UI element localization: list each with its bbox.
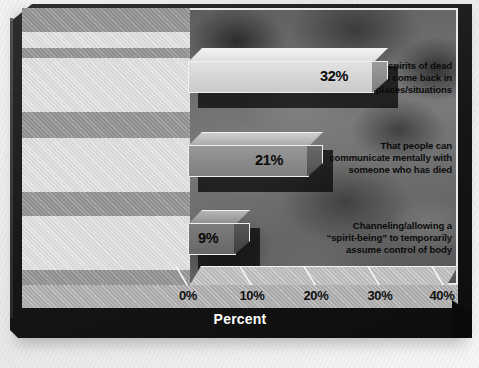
category-row-band <box>22 58 190 112</box>
chart-plot-body: Ghosts/that spirits of dead people can c… <box>22 8 458 308</box>
x-axis-title: Percent <box>22 311 458 327</box>
axis-tick-label-20: 20% <box>294 288 338 303</box>
axis-tick-label-strip: 0% 10% 20% 30% 40% <box>22 285 458 308</box>
bar-1-top-face <box>188 48 388 62</box>
category-row-band <box>22 138 190 192</box>
category-row-band <box>22 8 190 32</box>
bar-2-value-label: 21% <box>255 152 283 168</box>
category-row-band <box>22 216 190 270</box>
bar-3-value-label: 9% <box>198 230 218 246</box>
category-label-3-line-3: assume control of body <box>294 244 452 256</box>
axis-tick-label-10: 10% <box>230 288 274 303</box>
axis-tick-label-0: 0% <box>166 288 210 303</box>
axis-tick-label-40: 40% <box>420 288 464 303</box>
chart-figure: Ghosts/that spirits of dead people can c… <box>0 0 479 368</box>
frame-left-bevel <box>10 18 13 318</box>
category-label-3: Channeling/allowing a “spirit-being” to … <box>294 220 452 257</box>
category-row-band <box>22 112 190 138</box>
axis-tick-label-30: 30% <box>358 288 402 303</box>
category-row-band <box>22 270 190 285</box>
category-label-3-line-2: “spirit-being” to temporarily <box>294 232 452 244</box>
bar-1-value-label: 32% <box>320 68 348 84</box>
category-row-band <box>22 192 190 216</box>
bar-2-top-face <box>188 132 323 146</box>
category-label-3-line-1: Channeling/allowing a <box>294 220 452 232</box>
category-row-band <box>22 32 190 48</box>
category-row-band <box>22 48 190 58</box>
bar-2-front-face <box>188 145 309 177</box>
